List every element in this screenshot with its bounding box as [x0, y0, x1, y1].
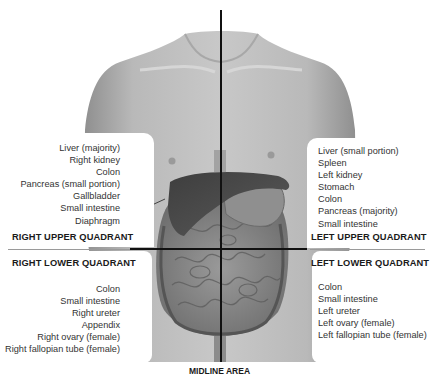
organ-item: Colon [318, 193, 399, 205]
right-lower-organ-list: Colon Small intestine Right ureter Appen… [5, 283, 120, 356]
organ-item: Left kidney [318, 169, 399, 181]
organ-item: Liver (majority) [20, 142, 120, 154]
organ-item: Stomach [318, 181, 399, 193]
organ-item: Diaphragm [20, 215, 120, 227]
left-divider-line [310, 249, 425, 250]
organ-item: Colon [5, 283, 120, 295]
organ-item: Small intestine [5, 295, 120, 307]
organ-item: Pancreas (small portion) [20, 178, 120, 190]
organ-item: Colon [20, 166, 120, 178]
right-upper-quadrant-title: RIGHT UPPER QUADRANT [12, 232, 133, 242]
right-divider-line [8, 249, 130, 250]
organ-item: Right kidney [20, 154, 120, 166]
organ-item: Liver (small portion) [318, 145, 399, 157]
organ-item: Gallbladder [20, 190, 120, 202]
organ-item: Small intestine [318, 293, 427, 305]
left-upper-quadrant-title: LEFT UPPER QUADRANT [311, 232, 427, 242]
organ-item: Right ureter [5, 307, 120, 319]
organ-item: Left fallopian tube (female) [318, 329, 427, 341]
organ-item: Appendix [5, 319, 120, 331]
organ-item: Right ovary (female) [5, 331, 120, 343]
right-nipple [169, 158, 176, 165]
right-upper-organ-list: Liver (majority) Right kidney Colon Panc… [20, 142, 120, 227]
organ-item: Left ureter [318, 305, 427, 317]
left-nipple [268, 152, 275, 159]
abdominal-quadrant-diagram: Liver (majority) Right kidney Colon Panc… [0, 0, 439, 380]
right-lower-quadrant-title: RIGHT LOWER QUADRANT [12, 258, 136, 268]
organ-item: Colon [318, 281, 427, 293]
organ-item: Pancreas (majority) [318, 205, 399, 217]
left-lower-quadrant-title: LEFT LOWER QUADRANT [311, 258, 429, 268]
organ-item: Right fallopian tube (female) [5, 343, 120, 355]
left-lower-organ-list: Colon Small intestine Left ureter Left o… [318, 281, 427, 341]
organ-item: Small intestine [20, 202, 120, 214]
left-upper-organ-list: Liver (small portion) Spleen Left kidney… [318, 145, 399, 230]
organ-item: Left ovary (female) [318, 317, 427, 329]
midline-area-label: MIDLINE AREA [0, 366, 439, 376]
organ-item: Small intestine [318, 218, 399, 230]
organ-item: Spleen [318, 157, 399, 169]
